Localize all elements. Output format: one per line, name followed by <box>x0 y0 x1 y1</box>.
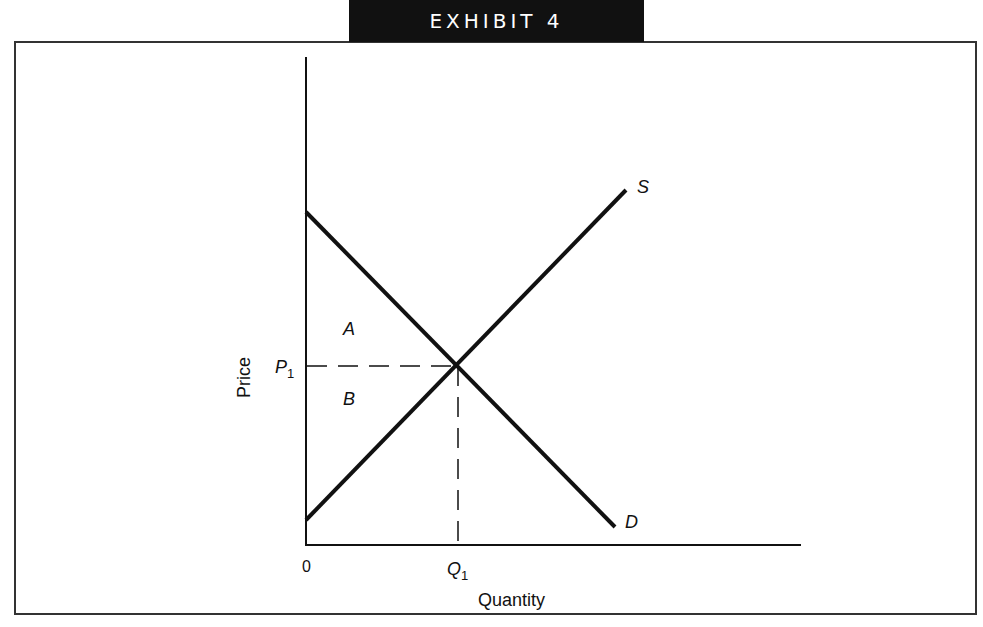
supply-label: S <box>637 177 649 197</box>
x-axis-title: Quantity <box>478 590 545 610</box>
region-a-label: A <box>342 319 355 339</box>
origin-label: 0 <box>302 558 311 575</box>
q1-subscript: 1 <box>461 568 468 583</box>
p1-subscript: 1 <box>287 366 294 381</box>
region-b-label: B <box>343 389 355 409</box>
y-axis-title: Price <box>234 357 254 398</box>
p1-tick-label: P1 <box>275 357 294 381</box>
demand-label: D <box>625 512 638 532</box>
supply-demand-chart: S D A B P1 0 Q1 Quantity Price <box>0 0 983 627</box>
demand-curve <box>306 212 615 527</box>
q1-tick-label: Q1 <box>447 559 468 583</box>
supply-curve <box>306 190 626 520</box>
